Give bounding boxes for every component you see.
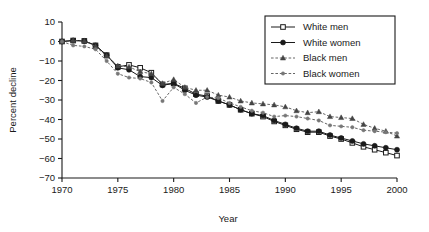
legend-marker-0 bbox=[281, 25, 286, 30]
x-tick-label-3: 1985 bbox=[219, 184, 240, 195]
data-point-3-9 bbox=[161, 99, 164, 102]
data-point-2-15 bbox=[227, 94, 232, 99]
y-tick-label-5: −40 bbox=[39, 114, 55, 125]
data-point-3-3 bbox=[94, 48, 97, 51]
data-point-3-23 bbox=[317, 119, 320, 122]
y-tick-label-2: −10 bbox=[39, 55, 55, 66]
data-point-3-27 bbox=[362, 129, 365, 132]
data-point-3-21 bbox=[295, 115, 298, 118]
data-point-3-19 bbox=[272, 115, 275, 118]
data-point-0-29 bbox=[384, 150, 389, 155]
data-point-3-20 bbox=[284, 114, 287, 117]
data-point-3-7 bbox=[138, 77, 141, 80]
data-point-1-20 bbox=[283, 122, 288, 127]
y-tick-label-4: −30 bbox=[39, 94, 55, 105]
legend-marker-1 bbox=[281, 40, 286, 45]
data-point-3-11 bbox=[183, 92, 186, 95]
x-tick-label-0: 1970 bbox=[51, 184, 72, 195]
data-point-3-30 bbox=[395, 131, 398, 134]
data-point-3-8 bbox=[150, 81, 153, 84]
data-point-3-22 bbox=[306, 117, 309, 120]
data-point-1-22 bbox=[305, 129, 310, 134]
x-tick-label-2: 1980 bbox=[163, 184, 184, 195]
y-tick-label-8: −70 bbox=[39, 172, 55, 183]
x-axis-title: Year bbox=[218, 213, 237, 224]
y-tick-label-3: −20 bbox=[39, 75, 55, 86]
legend-label-2: Black men bbox=[303, 52, 347, 63]
data-point-2-25 bbox=[339, 115, 344, 120]
data-point-3-28 bbox=[373, 130, 376, 133]
data-point-2-27 bbox=[361, 122, 366, 127]
data-point-1-24 bbox=[328, 133, 333, 138]
data-point-3-4 bbox=[105, 59, 108, 62]
y-axis-tick-labels: 100−10−20−30−40−50−60−70 bbox=[39, 16, 55, 183]
data-point-1-21 bbox=[294, 126, 299, 131]
data-point-3-2 bbox=[83, 45, 86, 48]
y-axis-ticks bbox=[58, 22, 62, 178]
legend-label-0: White men bbox=[303, 21, 348, 32]
data-point-1-19 bbox=[272, 118, 277, 123]
data-point-1-23 bbox=[316, 129, 321, 134]
data-point-3-0 bbox=[60, 40, 63, 43]
data-point-3-18 bbox=[261, 111, 264, 114]
data-point-2-10 bbox=[171, 77, 176, 82]
y-tick-label-6: −50 bbox=[39, 133, 55, 144]
data-point-3-16 bbox=[239, 105, 242, 108]
data-point-3-13 bbox=[205, 95, 208, 98]
data-point-1-28 bbox=[372, 143, 377, 148]
data-point-2-20 bbox=[283, 104, 288, 109]
x-tick-label-6: 2000 bbox=[386, 184, 407, 195]
data-point-3-6 bbox=[127, 76, 130, 79]
chart-container: 100−10−20−30−40−50−60−70 197019751980198… bbox=[0, 0, 429, 232]
data-point-3-24 bbox=[328, 124, 331, 127]
data-point-1-27 bbox=[361, 141, 366, 146]
legend-label-1: White women bbox=[303, 37, 361, 48]
x-tick-label-5: 1995 bbox=[331, 184, 352, 195]
chart-legend: White menWhite womenBlack menBlack women bbox=[265, 16, 395, 84]
data-point-1-12 bbox=[194, 93, 199, 98]
legend-label-3: Black women bbox=[303, 68, 360, 79]
y-tick-label-0: 10 bbox=[44, 16, 55, 27]
data-point-2-18 bbox=[260, 101, 265, 106]
x-tick-label-4: 1990 bbox=[275, 184, 296, 195]
y-tick-label-1: 0 bbox=[50, 36, 55, 47]
data-point-3-15 bbox=[228, 101, 231, 104]
x-axis-ticks bbox=[62, 178, 397, 182]
data-point-3-1 bbox=[71, 44, 74, 47]
data-point-1-25 bbox=[339, 136, 344, 141]
data-point-3-12 bbox=[194, 101, 197, 104]
percent-decline-line-chart: 100−10−20−30−40−50−60−70 197019751980198… bbox=[0, 0, 429, 232]
y-axis-title: Percent decline bbox=[7, 67, 18, 132]
data-point-3-25 bbox=[339, 125, 342, 128]
data-point-3-29 bbox=[384, 130, 387, 133]
data-point-2-22 bbox=[305, 110, 310, 115]
x-axis-tick-labels: 1970197519801985199019952000 bbox=[51, 184, 407, 195]
legend-marker-3 bbox=[281, 72, 284, 75]
data-point-3-10 bbox=[172, 86, 175, 89]
data-point-2-12 bbox=[193, 88, 198, 93]
x-tick-label-1: 1975 bbox=[107, 184, 128, 195]
data-point-3-17 bbox=[250, 109, 253, 112]
data-point-1-29 bbox=[383, 145, 388, 150]
data-point-2-23 bbox=[316, 109, 321, 114]
data-point-3-5 bbox=[116, 72, 119, 75]
data-point-1-30 bbox=[395, 147, 400, 152]
data-point-3-26 bbox=[351, 126, 354, 129]
data-point-3-14 bbox=[217, 96, 220, 99]
data-point-1-26 bbox=[350, 138, 355, 143]
data-point-0-30 bbox=[395, 153, 400, 158]
y-tick-label-7: −60 bbox=[39, 153, 55, 164]
